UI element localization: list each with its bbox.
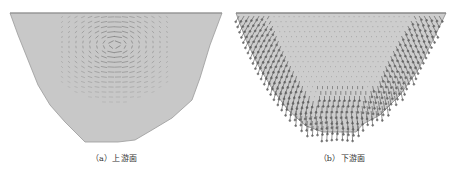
panel-a-upstream-face: （a）上游面 [0, 0, 228, 174]
dam-section-outline-a [10, 13, 222, 142]
upstream-vector-plot [0, 0, 228, 150]
caption-a: （a）上游面 [0, 152, 228, 163]
caption-b: （b）下游面 [228, 152, 456, 163]
downstream-vector-plot [228, 0, 456, 150]
panel-b-downstream-face: （b）下游面 [228, 0, 456, 174]
